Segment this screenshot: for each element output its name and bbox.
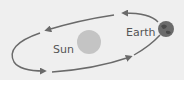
diagram-canvas: Sun Earth bbox=[0, 0, 184, 89]
sun-label: Sun bbox=[53, 44, 74, 55]
orbit-diagram bbox=[0, 0, 184, 89]
orbit-arc-left bbox=[12, 33, 44, 71]
earth-icon bbox=[158, 21, 174, 37]
orbit-arc-top-earth bbox=[124, 13, 158, 22]
earth-label: Earth bbox=[126, 27, 156, 38]
orbit-arc-bottom bbox=[52, 57, 130, 72]
orbit-arc-top-right bbox=[47, 15, 114, 30]
sun-icon bbox=[77, 30, 101, 54]
